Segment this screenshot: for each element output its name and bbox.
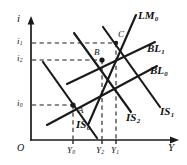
y-tick-label-i1: i1: [17, 37, 23, 46]
x-tick-sub-Y0: 0: [72, 149, 75, 155]
y-tick-label-i0: i0: [17, 99, 23, 108]
point-marker-A: [70, 102, 75, 107]
origin-label: O: [17, 143, 24, 153]
x-axis-label: Y: [168, 142, 174, 153]
y-axis-arrow: [28, 16, 35, 25]
point-marker-C: [114, 41, 118, 45]
curve-label-LM0: LM0: [138, 10, 158, 21]
curve-label-IS2: IS2: [126, 112, 140, 123]
x-tick-sub-Y1: 1: [116, 149, 119, 155]
point-label-A: A: [78, 106, 84, 115]
y-tick-label-i2: i2: [17, 54, 23, 63]
x-tick-label-Y0: Y0: [67, 146, 75, 155]
point-label-C: C: [118, 30, 124, 39]
x-tick-label-Y1: Y1: [111, 146, 119, 155]
y-axis-label: i: [17, 13, 20, 24]
curve-sub-BL0: 0: [164, 70, 167, 77]
y-tick-sub-i0: 0: [20, 102, 23, 108]
curve-base-IS2: IS: [126, 111, 136, 123]
curve-base-BL0: BL: [150, 64, 164, 76]
curve-base-BL1: BL: [147, 42, 161, 54]
diagram-canvas: [0, 0, 187, 165]
curve-base-IS1: IS: [160, 105, 170, 117]
curve-sub-IS2: 2: [137, 117, 140, 124]
curve-label-BL0: BL0: [150, 65, 168, 76]
curve-base-IS0: IS: [76, 118, 86, 130]
curve-BL1: [67, 42, 155, 84]
x-tick-sub-Y2: 2: [101, 149, 104, 155]
y-tick-sub-i2: 2: [20, 57, 23, 63]
curve-sub-IS1: 1: [171, 111, 174, 118]
point-label-B: B: [94, 48, 100, 57]
y-tick-sub-i1: 1: [20, 40, 23, 46]
curve-label-IS1: IS1: [160, 106, 174, 117]
curve-label-BL1: BL1: [147, 43, 165, 54]
curve-label-IS0: IS0: [76, 119, 90, 130]
x-tick-label-Y2: Y2: [96, 146, 104, 155]
curve-sub-IS0: 0: [87, 124, 90, 131]
curve-sub-LM0: 0: [155, 15, 158, 22]
curve-sub-BL1: 1: [161, 48, 164, 55]
is-lm-bp-figure: i Y O i1 i2 i0 Y0 Y2 Y1 LM0 BL1 BL0 IS1 …: [0, 0, 187, 165]
curve-base-LM0: LM: [138, 9, 155, 21]
point-marker-B: [99, 57, 104, 62]
